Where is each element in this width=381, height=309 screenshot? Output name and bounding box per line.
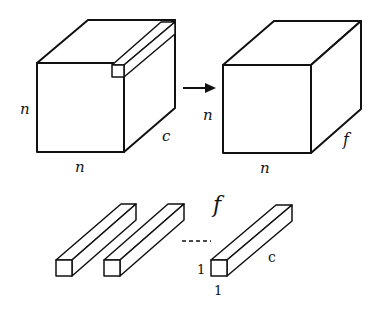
output-height-label: n <box>203 106 213 124</box>
input-width-label: n <box>75 158 85 176</box>
input-depth-label: c <box>162 127 171 145</box>
filters: f 1 1 c <box>56 192 292 298</box>
one-by-one-convolution-diagram: n n c n n f f <box>0 0 381 309</box>
input-front-face <box>37 63 124 152</box>
output-front-face <box>223 65 311 153</box>
arrow-right-icon <box>183 83 216 93</box>
input-height-label: n <box>20 100 30 118</box>
filter-height-label: 1 <box>197 262 205 277</box>
filter-depth-label: c <box>268 249 276 265</box>
filter-f <box>211 205 292 276</box>
output-depth-label: f <box>342 130 352 149</box>
output-volume: n n f <box>203 21 361 177</box>
filter-width-label: 1 <box>214 283 222 298</box>
fiber-front <box>112 65 124 77</box>
input-volume: n n c <box>20 20 175 176</box>
filter-count-label: f <box>211 192 225 217</box>
output-width-label: n <box>260 159 270 177</box>
